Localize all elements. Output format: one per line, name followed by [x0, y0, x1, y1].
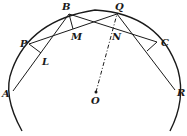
label-M: M — [70, 31, 83, 42]
perpendicular-PL — [29, 44, 41, 53]
label-C: C — [161, 37, 169, 48]
label-N: N — [111, 31, 122, 42]
label-L: L — [41, 56, 49, 67]
circle-arc — [9, 10, 181, 131]
label-Q: Q — [115, 1, 124, 12]
label-P: P — [19, 38, 28, 49]
center-point-O — [95, 91, 98, 94]
perpendicular-C — [147, 42, 157, 51]
diagram-svg: B Q P C L M N A R O — [0, 0, 187, 136]
label-B: B — [61, 1, 70, 12]
label-O: O — [91, 95, 100, 106]
label-R: R — [176, 87, 185, 98]
label-A: A — [1, 88, 10, 99]
geometry-diagram: B Q P C L M N A R O — [0, 0, 187, 136]
